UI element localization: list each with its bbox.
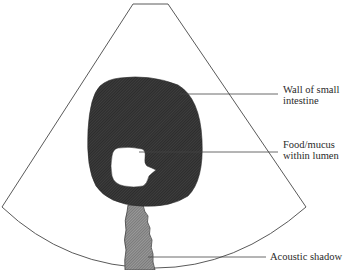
- label-acoustic-shadow: Acoustic shadow: [270, 251, 342, 262]
- label-food-line2: within lumen: [283, 150, 339, 161]
- label-shadow-line1: Acoustic shadow: [270, 251, 342, 262]
- label-wall-of-small-intestine: Wall of small intestine: [283, 84, 339, 106]
- intestine-wall: [88, 77, 203, 206]
- label-food-mucus-within-lumen: Food/mucus within lumen: [283, 139, 339, 161]
- ultrasound-diagram: [0, 0, 347, 270]
- label-wall-line1: Wall of small: [283, 84, 339, 95]
- label-wall-line2: intestine: [283, 95, 339, 106]
- label-food-line1: Food/mucus: [283, 139, 339, 150]
